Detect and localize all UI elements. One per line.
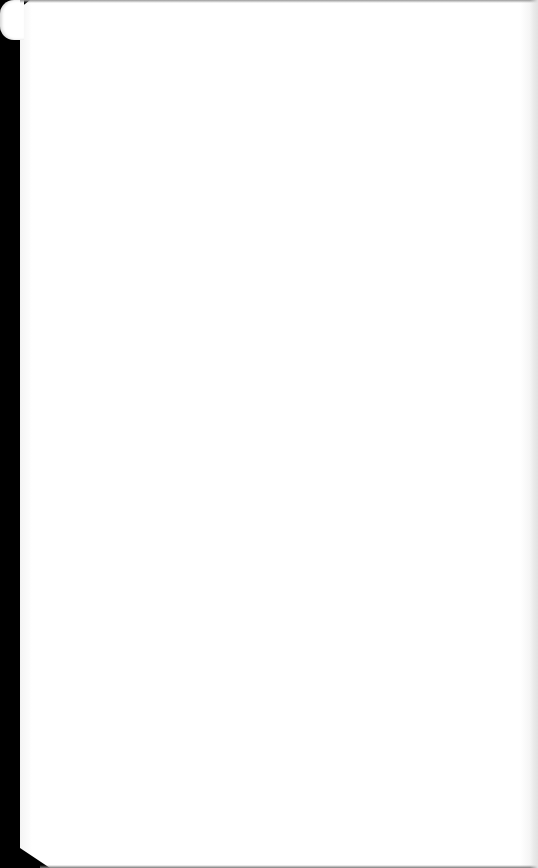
page-corner-curl xyxy=(0,0,24,40)
right-edge-shade xyxy=(530,0,538,868)
top-edge-shadow xyxy=(20,0,538,3)
scanned-document xyxy=(0,0,538,868)
blank-paper-page xyxy=(20,0,538,868)
